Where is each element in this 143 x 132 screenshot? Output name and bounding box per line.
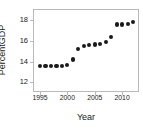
data-point: [71, 57, 75, 61]
data-point: [93, 42, 97, 46]
data-point: [126, 22, 130, 26]
x-axis-tick-label: 2000: [60, 95, 75, 102]
y-axis-tick: [30, 41, 34, 42]
x-axis-tick-label: 2005: [87, 95, 102, 102]
y-axis-title: PercentGDP: [0, 25, 7, 76]
y-axis-tick-label: 18: [20, 17, 28, 25]
data-point: [87, 43, 91, 47]
data-point: [115, 22, 119, 26]
y-axis-tick-label: 12: [20, 78, 28, 86]
data-point: [65, 63, 69, 67]
y-axis-tick: [30, 82, 34, 83]
y-axis-tick-label: 14: [20, 58, 28, 66]
data-point: [98, 42, 102, 46]
data-point: [120, 22, 124, 26]
plot-area: 121416181995200020052010: [33, 9, 139, 92]
data-point: [82, 44, 86, 48]
scatter-series: [34, 10, 138, 91]
x-axis-title: Year: [77, 113, 95, 122]
chart-figure: PercentGDP 121416181995200020052010 Year: [0, 0, 143, 132]
data-point: [76, 47, 80, 51]
data-point: [38, 64, 42, 68]
x-axis-tick-label: 1995: [32, 95, 47, 102]
y-axis-tick-label: 16: [20, 37, 28, 45]
data-point: [49, 64, 53, 68]
data-point: [109, 35, 113, 39]
data-point: [60, 64, 64, 68]
y-axis-tick: [30, 62, 34, 63]
data-point: [131, 20, 135, 24]
x-axis-tick-label: 2010: [115, 95, 130, 102]
data-point: [54, 64, 58, 68]
data-point: [43, 64, 47, 68]
data-point: [104, 40, 108, 44]
y-axis-tick: [30, 20, 34, 21]
y-axis-title-text: PercentGDP: [0, 25, 7, 76]
